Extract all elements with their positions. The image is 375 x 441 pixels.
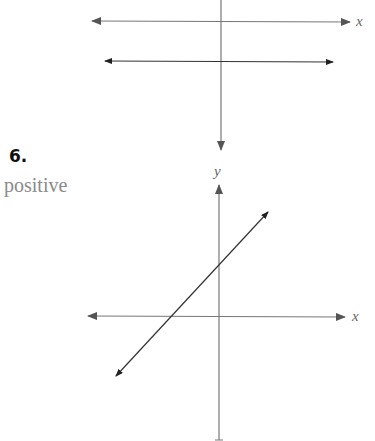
bottom-x-axis: [88, 316, 345, 317]
bottom-y-axis-label: y: [212, 163, 221, 179]
horizontal-line: [105, 61, 333, 62]
answer-text: positive: [4, 174, 67, 197]
top-graph: x: [92, 0, 363, 150]
problem-number: 6.: [9, 146, 27, 166]
graphs-canvas: x y x: [0, 0, 375, 441]
bottom-graph: y x: [88, 163, 359, 440]
bottom-x-axis-label: x: [351, 308, 359, 324]
top-x-axis-label: x: [355, 13, 363, 29]
positive-slope-line: [116, 212, 268, 376]
